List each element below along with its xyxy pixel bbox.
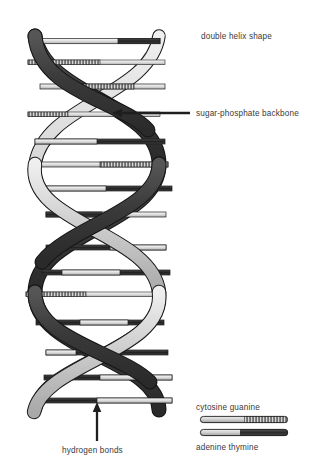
base-pair-rung	[40, 39, 160, 44]
legend-label-adenine-thymine: adenine thymine	[196, 444, 258, 452]
base-pair-rung	[26, 292, 166, 297]
base-pair-rung	[40, 162, 168, 167]
label-hydrogen-bonds: hydrogen bonds	[62, 447, 123, 455]
base-pair-rung	[42, 398, 172, 403]
base-pair-legend: cytosine guanine adenine thymine	[196, 404, 292, 452]
label-double-helix-shape: double helix shape	[201, 33, 272, 41]
label-sugar-phosphate-backbone: sugar-phosphate backbone	[196, 110, 299, 118]
legend-label-cytosine-guanine: cytosine guanine	[196, 404, 260, 412]
base-pair-rung	[35, 139, 165, 144]
hydrogen-bonds-arrow	[93, 402, 102, 441]
